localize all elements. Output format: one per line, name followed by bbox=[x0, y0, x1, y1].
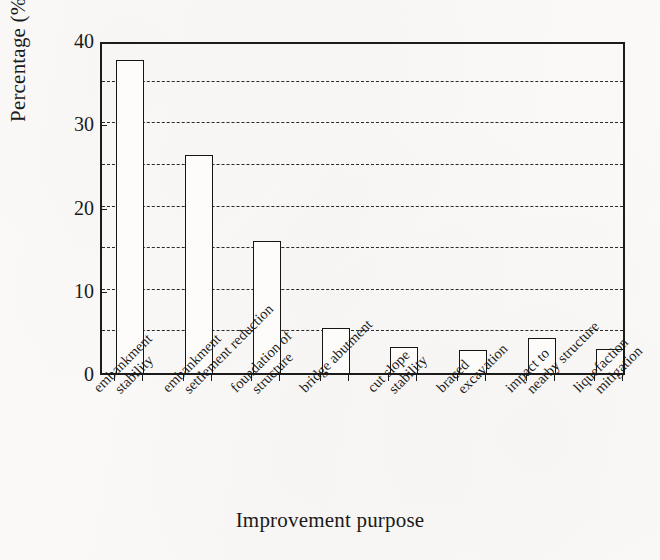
y-tick-label: 10 bbox=[54, 281, 94, 301]
y-tick-label: 30 bbox=[54, 114, 94, 134]
gridline-20 bbox=[102, 206, 623, 207]
gridline-15 bbox=[102, 247, 623, 248]
x-tick-mark bbox=[348, 375, 349, 381]
figure: Percentage (%) 010203040 embankmentstabi… bbox=[0, 0, 660, 560]
y-tick-label: 20 bbox=[54, 198, 94, 218]
y-axis-title: Percentage (%) bbox=[6, 0, 31, 122]
x-axis-title: Improvement purpose bbox=[0, 508, 660, 533]
y-tick-label: 40 bbox=[54, 31, 94, 51]
bar bbox=[116, 60, 144, 373]
gridline-25 bbox=[102, 164, 623, 165]
gridline-35 bbox=[102, 81, 623, 82]
y-tick-label: 0 bbox=[54, 364, 94, 384]
gridline-30 bbox=[102, 122, 623, 123]
